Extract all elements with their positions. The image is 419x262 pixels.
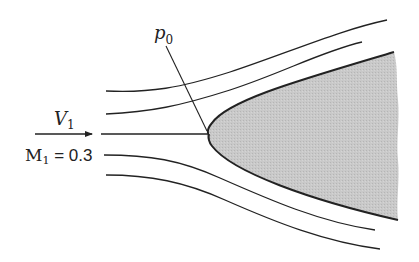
flow-diagram: p0 V1 M1 = 0.3 [0, 0, 419, 262]
mach-value: = 0.3 [49, 146, 92, 165]
stagnation-pressure-label: p0 [154, 22, 173, 47]
mach-number-label: M1 = 0.3 [25, 145, 92, 167]
blunt-body [207, 52, 399, 220]
velocity-label: V1 [54, 108, 75, 132]
stagnation-pressure-leader [166, 46, 207, 131]
